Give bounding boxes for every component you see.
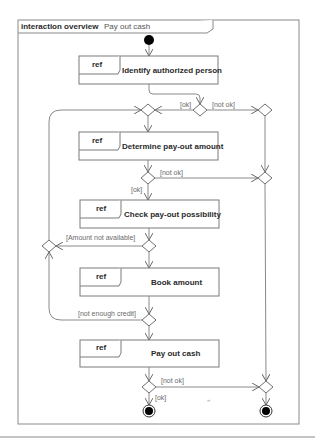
- frame-kind-label: interaction overview: [21, 22, 99, 31]
- interaction-use-check[interactable]: ref Check pay-out possibility: [80, 200, 221, 228]
- interaction-use-book[interactable]: ref Book amount: [80, 268, 219, 296]
- interaction-label: Determine pay-out amount: [122, 142, 224, 151]
- final-node-ok: [143, 405, 155, 417]
- interaction-label: Book amount: [151, 278, 202, 287]
- interaction-overview-diagram: interaction overview Pay out cash ref Id…: [0, 0, 315, 445]
- guard-amount-not-available: [Amount not available]: [66, 234, 135, 242]
- ref-label: ref: [96, 343, 107, 352]
- interaction-label: Identify authorized person: [122, 66, 222, 75]
- ref-label: ref: [96, 204, 107, 213]
- initial-node: [144, 35, 154, 45]
- ref-label: ref: [96, 272, 107, 281]
- interaction-label: Check pay-out possibility: [124, 210, 221, 219]
- guard-payout-not-ok: [not ok]: [161, 377, 184, 385]
- interaction-label: Pay out cash: [151, 349, 200, 358]
- frame-title: Pay out cash: [104, 22, 150, 31]
- guard-identify-not-ok: [not ok]: [212, 101, 235, 109]
- interaction-use-payout[interactable]: ref Pay out cash: [80, 340, 219, 367]
- guard-not-enough-credit: [not enough credit]: [78, 310, 136, 318]
- guard-determine-ok: [ok]: [131, 186, 142, 194]
- ref-label: ref: [92, 136, 103, 145]
- interaction-use-determine[interactable]: ref Determine pay-out amount: [79, 132, 224, 160]
- ref-label: ref: [92, 60, 103, 69]
- guard-identify-ok: [ok]: [180, 101, 191, 109]
- final-node-not-ok: [260, 405, 272, 417]
- guard-determine-not-ok: [not ok]: [160, 169, 183, 177]
- guard-payout-ok: [ok]: [155, 394, 166, 402]
- interaction-use-identify[interactable]: ref Identify authorized person: [79, 56, 222, 84]
